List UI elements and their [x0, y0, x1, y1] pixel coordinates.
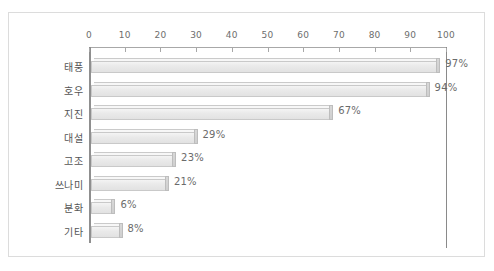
x-axis-tick: [89, 48, 90, 52]
bar-row[interactable]: 분화6%: [9, 196, 486, 220]
bar[interactable]: [91, 176, 170, 192]
bar-face: [91, 226, 120, 238]
bar-row[interactable]: 쓰나미21%: [9, 173, 486, 197]
x-axis-tick: [375, 48, 376, 52]
category-label: 기타: [64, 224, 83, 239]
x-axis-tick-label: 60: [297, 30, 309, 40]
x-axis-tick-label: 100: [437, 30, 455, 40]
bar-top-face: [94, 105, 333, 108]
bar-value-label: 6%: [120, 199, 136, 210]
bar-end-cap: [194, 129, 198, 144]
bar-face: [91, 202, 112, 214]
category-label: 호우: [64, 83, 83, 98]
bar[interactable]: [91, 152, 177, 168]
x-axis-tick-label: 30: [190, 30, 202, 40]
bar-face: [91, 108, 330, 120]
bar-end-cap: [329, 105, 333, 120]
bar-row[interactable]: 대설29%: [9, 126, 486, 150]
bar-row[interactable]: 지진67%: [9, 102, 486, 126]
x-axis-tick-label: 20: [154, 30, 166, 40]
bar-end-cap: [111, 199, 115, 214]
bar-top-face: [94, 152, 176, 155]
x-axis-tick: [160, 48, 161, 52]
bar-value-label: 29%: [203, 129, 226, 140]
x-axis-tick: [446, 48, 447, 52]
category-label: 분화: [64, 200, 83, 215]
bar-row[interactable]: 태풍97%: [9, 55, 486, 79]
x-axis-tick-label: 90: [404, 30, 416, 40]
bar-end-cap: [172, 152, 176, 167]
x-axis-tick: [196, 48, 197, 52]
bar-face: [91, 61, 437, 73]
bar-end-cap: [436, 58, 440, 73]
category-label: 태풍: [64, 59, 83, 74]
bar-row[interactable]: 고조23%: [9, 149, 486, 173]
bar-top-face: [94, 82, 430, 85]
x-axis-tick-label: 0: [86, 30, 92, 40]
bar-value-label: 8%: [128, 223, 144, 234]
bar-end-cap: [119, 223, 123, 238]
bar-top-face: [94, 129, 198, 132]
chart-frame: 0102030405060708090100 태풍97%호우94%지진67%대설…: [8, 12, 485, 257]
bar-top-face: [94, 176, 169, 179]
category-label: 고조: [64, 153, 83, 168]
bar-end-cap: [426, 82, 430, 97]
x-axis-tick: [410, 48, 411, 52]
x-axis-tick-label: 10: [119, 30, 131, 40]
x-axis-tick-label: 40: [226, 30, 238, 40]
bar[interactable]: [91, 199, 116, 215]
x-axis-tick-label: 50: [262, 30, 274, 40]
bar[interactable]: [91, 82, 431, 98]
x-axis-tick: [303, 48, 304, 52]
bar-chart-plot-area: 0102030405060708090100 태풍97%호우94%지진67%대설…: [9, 13, 486, 258]
bar-top-face: [94, 58, 440, 61]
x-axis-tick: [268, 48, 269, 52]
bar-end-cap: [165, 176, 169, 191]
x-axis-tick-label: 70: [333, 30, 345, 40]
x-axis-tick: [339, 48, 340, 52]
category-label: 쓰나미: [55, 177, 83, 192]
bar-face: [91, 155, 173, 167]
category-label: 대설: [64, 130, 83, 145]
bar[interactable]: [91, 223, 124, 239]
bar-value-label: 97%: [445, 58, 468, 69]
bar[interactable]: [91, 105, 334, 121]
bar-face: [91, 179, 166, 191]
x-axis-tick: [125, 48, 126, 52]
bar-row[interactable]: 호우94%: [9, 79, 486, 103]
bar-value-label: 23%: [181, 152, 204, 163]
x-axis-tick-label: 80: [369, 30, 381, 40]
bar-value-label: 21%: [174, 176, 197, 187]
category-label: 지진: [64, 106, 83, 121]
bar-face: [91, 85, 427, 97]
bar-value-label: 67%: [338, 105, 361, 116]
bar[interactable]: [91, 58, 441, 74]
bar-row[interactable]: 기타8%: [9, 220, 486, 244]
bar-face: [91, 132, 195, 144]
bar[interactable]: [91, 129, 199, 145]
bar-value-label: 94%: [435, 82, 458, 93]
x-axis-tick: [232, 48, 233, 52]
